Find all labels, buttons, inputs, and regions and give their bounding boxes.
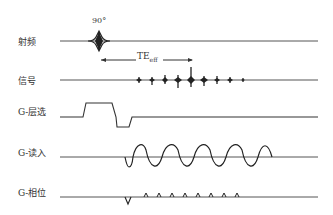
g-read-row [60, 145, 318, 167]
rf-row [60, 31, 318, 51]
signal-row [60, 67, 318, 88]
te-arrow [101, 58, 193, 62]
pulse-sequence-diagram [0, 0, 333, 215]
g-phase-row [60, 193, 318, 204]
g-slice-row [60, 103, 318, 127]
